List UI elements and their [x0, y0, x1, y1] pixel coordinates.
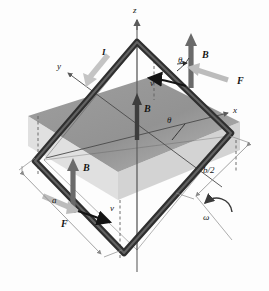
axis-label-z: z: [133, 6, 137, 15]
vector-label-B-top-right: B: [202, 50, 209, 60]
vector-label-v-bottom: v: [110, 204, 114, 213]
vector-label-B-lower-left: B: [83, 163, 90, 173]
rotation-label-omega: ω: [203, 213, 209, 222]
vector-label-v-top: v: [150, 79, 154, 88]
dimension-label-b-half: b/2: [203, 166, 215, 175]
vector-label-F-top-right: F: [237, 76, 244, 86]
figure-canvas: z x y B B B F F v v I θ θ a b/2 ω: [0, 0, 269, 291]
physics-diagram-svg: [0, 0, 269, 291]
vector-label-F-lower-left: F: [61, 219, 68, 229]
angle-label-theta-center: θ: [167, 116, 171, 125]
xy-plane-shading: [28, 77, 240, 200]
angle-label-theta-top: θ: [178, 56, 182, 65]
vector-label-B-center: B: [144, 104, 151, 114]
vector-label-current-I: I: [102, 48, 106, 57]
dimension-label-a: a: [52, 196, 57, 205]
axis-label-y: y: [57, 62, 61, 71]
rotation-omega-arrow: [205, 198, 232, 212]
axis-label-x: x: [233, 106, 237, 115]
